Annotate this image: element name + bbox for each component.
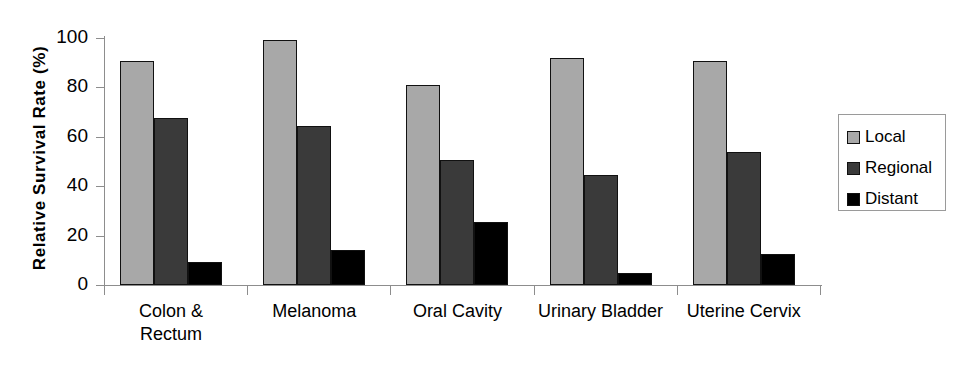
x-axis-category-label: Uterine Cervix xyxy=(672,300,815,323)
x-axis-tick-mark xyxy=(247,286,248,295)
x-axis-tick-mark xyxy=(104,286,105,295)
chart-figure: Relative Survival Rate (%) 020406080100 … xyxy=(0,0,970,372)
x-axis-category-label: Melanoma xyxy=(243,300,386,323)
bar-local xyxy=(550,58,584,285)
bar-regional xyxy=(584,175,618,285)
legend-swatch-icon xyxy=(847,162,860,175)
y-axis-tick-mark xyxy=(96,87,104,88)
bar-regional xyxy=(154,118,188,285)
y-axis-tick-label: 100 xyxy=(56,26,88,48)
bar-distant xyxy=(761,254,795,285)
bar-local xyxy=(263,40,297,285)
bar-distant xyxy=(618,273,652,285)
x-axis-category-label: Oral Cavity xyxy=(386,300,529,323)
chart-legend: LocalRegionalDistant xyxy=(838,114,946,211)
x-axis-tick-mark xyxy=(390,286,391,295)
legend-item-local[interactable]: Local xyxy=(847,127,906,147)
legend-swatch-icon xyxy=(847,193,860,206)
y-axis-tick-label: 60 xyxy=(67,125,88,147)
y-axis-tick-mark xyxy=(96,38,104,39)
legend-item-regional[interactable]: Regional xyxy=(847,158,932,178)
bar-local xyxy=(406,85,440,285)
bar-distant xyxy=(188,262,222,285)
x-axis-tick-mark xyxy=(820,286,821,295)
legend-item-distant[interactable]: Distant xyxy=(847,189,918,209)
bar-local xyxy=(120,61,154,285)
y-axis-tick-mark xyxy=(96,186,104,187)
y-axis-tick-label: 0 xyxy=(77,273,88,295)
y-axis-tick-label: 20 xyxy=(67,224,88,246)
x-axis-category-label: Urinary Bladder xyxy=(529,300,672,323)
x-axis-tick-mark xyxy=(677,286,678,295)
x-axis-line xyxy=(104,285,822,286)
x-axis-category-label: Colon & Rectum xyxy=(99,300,242,346)
legend-label: Regional xyxy=(865,158,932,178)
y-axis-tick-mark xyxy=(96,137,104,138)
bar-distant xyxy=(474,222,508,285)
bar-regional xyxy=(727,152,761,285)
legend-swatch-icon xyxy=(847,131,860,144)
y-axis-tick-label: 40 xyxy=(67,174,88,196)
bar-regional xyxy=(297,126,331,285)
bar-local xyxy=(693,61,727,285)
y-axis-tick-mark xyxy=(96,285,104,286)
y-axis-tick-mark xyxy=(96,236,104,237)
x-axis-tick-mark xyxy=(534,286,535,295)
plot-area xyxy=(104,38,820,285)
bar-distant xyxy=(331,250,365,285)
y-axis-tick-label: 80 xyxy=(67,75,88,97)
legend-label: Local xyxy=(865,127,906,147)
legend-label: Distant xyxy=(865,189,918,209)
bar-regional xyxy=(440,160,474,285)
y-axis-title: Relative Survival Rate (%) xyxy=(30,13,50,303)
